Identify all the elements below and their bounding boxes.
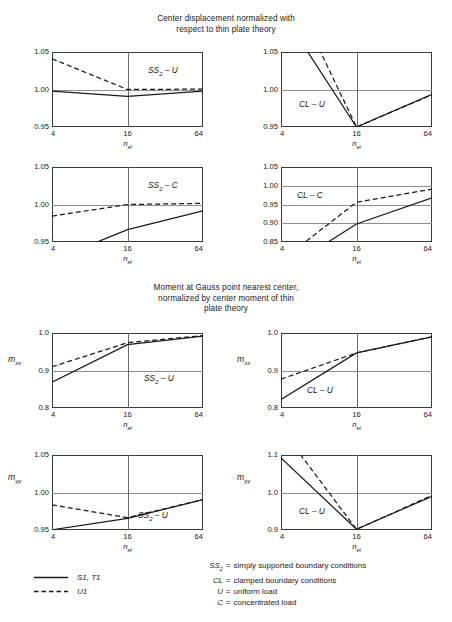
- plot-cl-u-myy: 1.11.00.941664nelmyyCL – U: [281, 455, 432, 530]
- curve-layer: [52, 52, 203, 127]
- y-tick-label: 0.95: [263, 123, 278, 131]
- x-tick-label: 4: [280, 533, 284, 541]
- y-tick-label: 1.1: [267, 451, 278, 459]
- definition-text: clamped boundary conditions: [234, 575, 337, 586]
- series-s1-t1: [281, 458, 432, 529]
- definition-row: C=concentrated load: [197, 597, 366, 608]
- y-tick-label: 1.00: [34, 201, 49, 209]
- section-title-moment: Moment at Gauss point nearest center,nor…: [0, 283, 452, 315]
- y-tick-label: 0.8: [38, 404, 49, 412]
- plot-ss2-u-displacement: 1.051.000.9541664nelSS2 – U: [52, 52, 203, 127]
- y-tick-label: 1.00: [263, 86, 278, 94]
- definition-equals: =: [226, 597, 231, 608]
- legend-row-dashed: U1: [34, 584, 101, 598]
- x-tick-label: 16: [352, 245, 360, 253]
- definition-symbol: C: [197, 597, 223, 608]
- plot-ss2-u-myy: 1.051.000.9541664nelmyySS2 – U: [52, 455, 203, 530]
- definition-symbol: CL: [197, 575, 223, 586]
- x-axis-label: nel: [352, 140, 361, 151]
- x-axis-label-subscript: el: [356, 547, 360, 553]
- x-tick-label: 16: [352, 130, 360, 138]
- y-tick-label: 1.00: [263, 182, 278, 190]
- definition-row: SS2=simply supported boundary conditions: [197, 560, 366, 575]
- x-axis-label: nel: [352, 255, 361, 266]
- y-axis-label-subscript: yy: [15, 477, 21, 484]
- series-u1: [281, 455, 432, 529]
- curve-layer: [52, 455, 203, 530]
- y-tick-label: 1.05: [34, 48, 49, 56]
- plot-cl-u-displacement: 1.051.000.9541664nelCL – U: [281, 52, 432, 127]
- curve-layer: [52, 333, 203, 408]
- definition-equals: =: [226, 560, 231, 571]
- x-axis-label-subscript: el: [127, 547, 131, 553]
- x-tick-label: 64: [424, 411, 432, 419]
- y-tick-label: 0.90: [263, 219, 278, 227]
- y-tick-label: 1.05: [263, 163, 278, 171]
- x-tick-label: 64: [195, 533, 203, 541]
- series-s1-t1: [281, 337, 432, 400]
- x-tick-label: 4: [280, 245, 284, 253]
- y-tick-label: 0.9: [267, 526, 278, 534]
- y-axis-label: mxx: [8, 355, 21, 367]
- definition-symbol: U: [197, 586, 223, 597]
- plot-ss2-u-mxx: 1.00.90.841664nelmxxSS2 – U: [52, 333, 203, 408]
- y-axis-label-subscript: xx: [15, 359, 21, 366]
- curve-layer: [281, 52, 432, 127]
- curve-layer: [281, 455, 432, 530]
- x-axis-label-subscript: el: [127, 425, 131, 431]
- figure-page: Center displacement normalized withrespe…: [0, 0, 452, 622]
- legend-label-dashed: U1: [77, 587, 87, 596]
- x-tick-label: 4: [51, 130, 55, 138]
- x-tick-label: 4: [51, 411, 55, 419]
- definition-text: simply supported boundary conditions: [234, 560, 366, 571]
- y-tick-label: 0.9: [38, 367, 49, 375]
- x-tick-label: 16: [123, 245, 131, 253]
- plot-cl-c-displacement: 1.051.000.950.900.8541664nelCL – C: [281, 167, 432, 242]
- x-axis-label-subscript: el: [127, 259, 131, 265]
- definition-equals: =: [226, 575, 231, 586]
- x-tick-label: 16: [123, 533, 131, 541]
- series-s1-t1: [281, 52, 432, 127]
- x-tick-label: 16: [123, 411, 131, 419]
- x-tick-label: 4: [280, 411, 284, 419]
- series-s1-t1: [281, 198, 432, 242]
- y-tick-label: 0.95: [34, 123, 49, 131]
- y-tick-label: 0.95: [34, 238, 49, 246]
- y-tick-label: 1.00: [34, 489, 49, 497]
- curve-layer: [52, 167, 203, 242]
- series-s1-t1: [52, 211, 203, 242]
- x-axis-label-subscript: el: [356, 425, 360, 431]
- y-tick-label: 0.95: [263, 201, 278, 209]
- x-tick-label: 64: [195, 245, 203, 253]
- series-s1-t1: [52, 500, 203, 530]
- y-axis-label-subscript: yy: [244, 477, 250, 484]
- y-axis-label: myy: [237, 473, 250, 485]
- definition-symbol: SS2: [197, 560, 223, 575]
- x-axis-label: nel: [352, 543, 361, 554]
- x-axis-label: nel: [352, 421, 361, 432]
- x-tick-label: 16: [352, 411, 360, 419]
- x-tick-label: 64: [424, 245, 432, 253]
- y-tick-label: 1.05: [34, 163, 49, 171]
- x-tick-label: 4: [280, 130, 284, 138]
- x-tick-label: 64: [424, 533, 432, 541]
- definition-symbol-subscript: 2: [220, 566, 223, 572]
- legend-dashed-line-icon: [34, 587, 68, 596]
- x-axis-label: nel: [123, 140, 132, 151]
- y-tick-label: 1.0: [267, 329, 278, 337]
- y-tick-label: 0.8: [267, 404, 278, 412]
- x-tick-label: 64: [424, 130, 432, 138]
- x-axis-label: nel: [123, 421, 132, 432]
- definition-row: U=uniform load: [197, 586, 366, 597]
- x-tick-label: 16: [123, 130, 131, 138]
- x-tick-label: 64: [195, 130, 203, 138]
- plot-cl-u-mxx: 1.00.90.841664nelmxxCL – U: [281, 333, 432, 408]
- series-u1: [281, 189, 432, 242]
- curve-layer: [281, 167, 432, 242]
- x-axis-label-subscript: el: [356, 144, 360, 150]
- line-style-legend: S1, T1 U1: [34, 570, 101, 598]
- series-s1-t1: [52, 336, 203, 382]
- x-tick-label: 4: [51, 245, 55, 253]
- y-tick-label: 0.95: [34, 526, 49, 534]
- y-tick-label: 0.85: [263, 238, 278, 246]
